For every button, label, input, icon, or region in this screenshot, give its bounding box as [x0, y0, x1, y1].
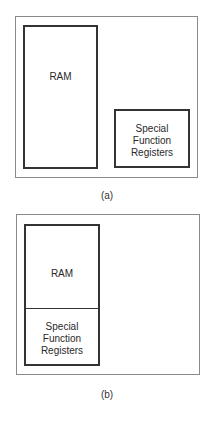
sfr-label-line-3: Registers: [116, 147, 188, 159]
figure-a-caption: (a): [87, 190, 127, 202]
figure-a-ram-block: RAM: [23, 25, 98, 169]
sfr-label-line-3: Registers: [26, 345, 98, 357]
figure-a-ram-label: RAM: [25, 71, 96, 83]
figure-b-divider: [26, 308, 98, 309]
figure-b-caption: (b): [87, 389, 127, 401]
figure-a-sfr-block: Special Function Registers: [114, 109, 190, 168]
figure-b-sfr-label: Special Function Registers: [26, 321, 98, 357]
sfr-label-line-1: Special: [26, 321, 98, 333]
figure-b-ram-label: RAM: [26, 268, 98, 280]
sfr-label-line-2: Function: [26, 333, 98, 345]
figure-a-sfr-label: Special Function Registers: [116, 123, 188, 159]
figure-b-memory-block: RAM Special Function Registers: [24, 224, 100, 366]
sfr-label-line-1: Special: [116, 123, 188, 135]
sfr-label-line-2: Function: [116, 135, 188, 147]
